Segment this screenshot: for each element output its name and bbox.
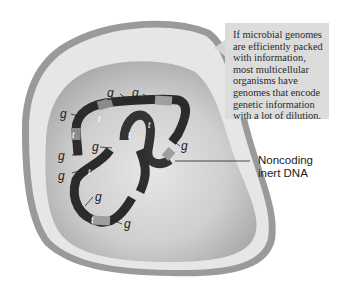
gene-label: g bbox=[92, 141, 99, 153]
callout-pointer bbox=[214, 40, 225, 56]
annotation-line: inert DNA bbox=[258, 167, 313, 180]
transposon-label: t bbox=[148, 121, 151, 130]
gene-label: g bbox=[132, 87, 139, 99]
transposon-label: t bbox=[98, 115, 101, 124]
callout-text: with information, bbox=[233, 52, 323, 64]
callout-text: are efficiently packed bbox=[233, 41, 323, 53]
transposon-label: t bbox=[128, 131, 131, 140]
noncoding-dna-label: Noncoding inert DNA bbox=[258, 154, 313, 180]
gene-label: g bbox=[60, 108, 67, 120]
explanation-callout: If microbial genomes are efficiently pac… bbox=[225, 23, 329, 119]
gene-label: g bbox=[181, 140, 188, 152]
gene-label: g bbox=[58, 150, 65, 162]
gene-label: g bbox=[58, 170, 65, 182]
callout-text: If microbial genomes bbox=[233, 29, 323, 41]
transposon-label: t bbox=[88, 168, 91, 177]
gene-label: g bbox=[124, 218, 131, 230]
gene-label: g bbox=[107, 87, 114, 99]
annotation-line: Noncoding bbox=[258, 154, 313, 167]
callout-text: most multicellular bbox=[233, 64, 323, 76]
transposon-label: t bbox=[72, 131, 75, 140]
callout-text: organisms have bbox=[233, 75, 323, 87]
gene-label: g bbox=[95, 191, 102, 203]
callout-text: with a lot of dilution. bbox=[233, 110, 323, 122]
transposon-label: t bbox=[91, 216, 94, 225]
callout-text: genomes that encode bbox=[233, 87, 323, 99]
callout-text: genetic information bbox=[233, 99, 323, 111]
